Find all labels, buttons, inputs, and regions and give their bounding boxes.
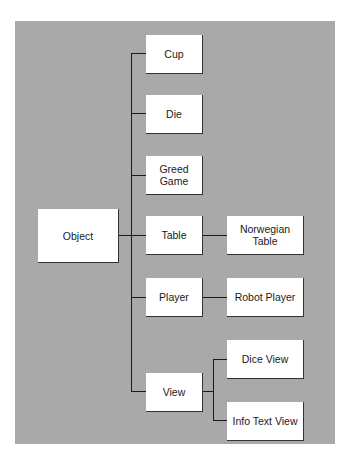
node-view: View: [146, 373, 203, 412]
node-robot-player: Robot Player: [227, 278, 304, 317]
connector-view-trunk: [202, 391, 213, 392]
connector-player: [131, 297, 146, 298]
connector-view-vertical: [213, 359, 214, 421]
node-info-text-view: Info Text View: [227, 402, 304, 441]
connector-cup: [131, 53, 146, 54]
connector-info-text-view: [213, 420, 227, 421]
node-die: Die: [146, 95, 203, 134]
connector-norwegian-table: [202, 235, 227, 236]
node-greed-game: Greed Game: [146, 156, 203, 195]
node-player: Player: [146, 278, 203, 317]
connector-main-vertical: [131, 53, 132, 392]
node-cup: Cup: [146, 35, 203, 74]
node-dice-view: Dice View: [227, 340, 304, 379]
connector-view: [131, 391, 146, 392]
connector-table: [131, 235, 146, 236]
connector-die: [131, 113, 146, 114]
node-object: Object: [38, 209, 119, 263]
node-table: Table: [146, 216, 203, 255]
connector-greed-game: [131, 175, 146, 176]
connector-dice-view: [213, 359, 227, 360]
connector-robot-player: [202, 297, 227, 298]
connector-object-trunk: [118, 235, 132, 236]
node-norwegian-table: Norwegian Table: [227, 216, 304, 255]
